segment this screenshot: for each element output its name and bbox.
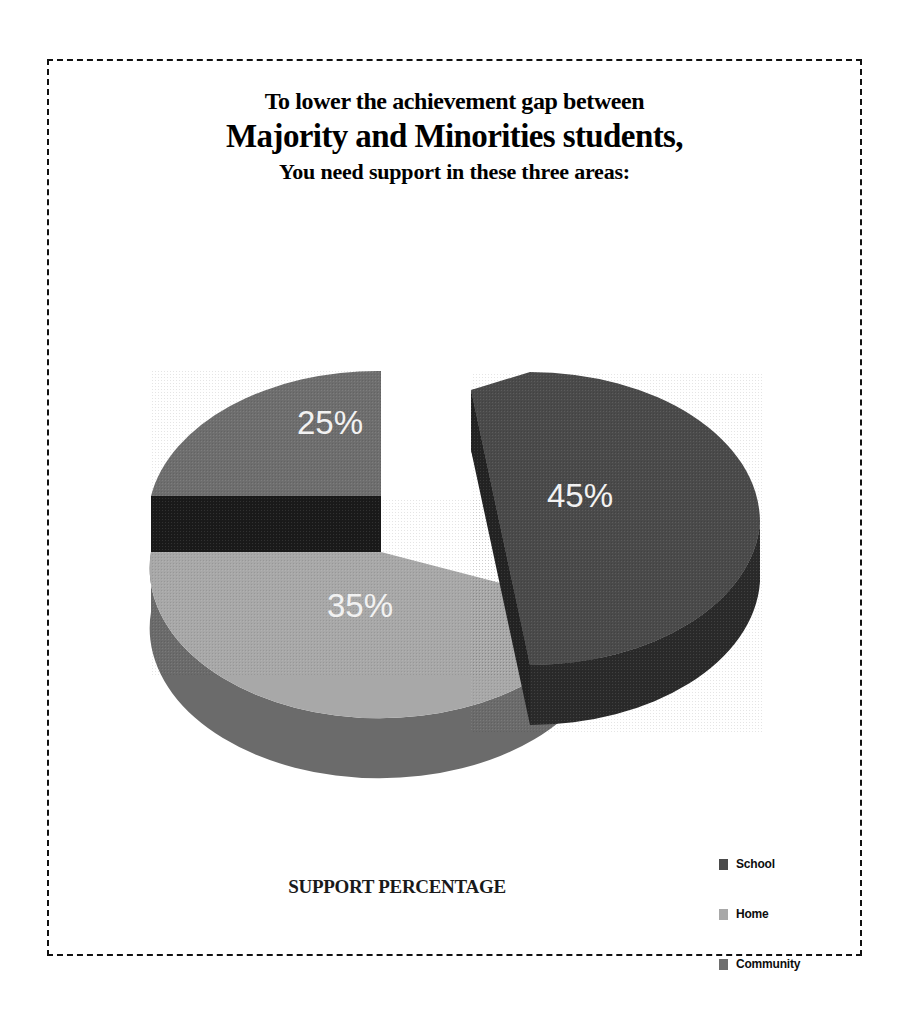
legend-label-community: Community <box>736 957 800 971</box>
chart-legend: School Home Community <box>719 839 899 989</box>
title-line-1: To lower the achievement gap between <box>49 87 860 116</box>
slide-title-block: To lower the achievement gap between Maj… <box>49 87 860 186</box>
legend-item-home[interactable]: Home <box>719 889 899 939</box>
legend-item-community[interactable]: Community <box>719 939 899 989</box>
legend-label-school: School <box>736 857 775 871</box>
legend-swatch-school <box>719 859 728 870</box>
legend-swatch-home <box>719 909 728 920</box>
title-line-2: Majority and Minorities students, <box>49 117 860 156</box>
legend-label-home: Home <box>736 907 769 921</box>
legend-item-school[interactable]: School <box>719 839 899 889</box>
chart-caption: SUPPORT PERCENTAGE <box>247 876 547 898</box>
slide-frame: To lower the achievement gap between Maj… <box>47 59 862 956</box>
legend-swatch-community <box>719 959 728 970</box>
title-line-3: You need support in these three areas: <box>49 159 860 186</box>
